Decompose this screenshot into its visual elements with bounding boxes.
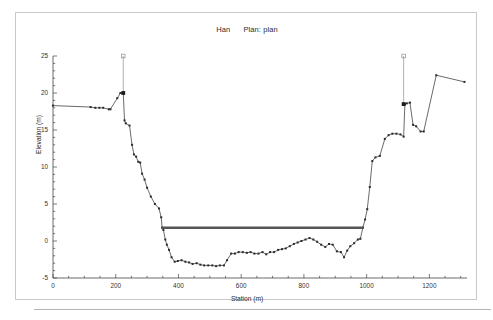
y-tick-label: 15 — [21, 126, 48, 133]
plot-area — [16, 13, 478, 301]
y-tick-label: -5 — [21, 274, 48, 281]
x-tick-label: 400 — [163, 282, 193, 289]
chart-page: Han Plan: plan Elevation (m) Station (m)… — [0, 0, 493, 320]
y-tick-label: 25 — [21, 52, 48, 59]
x-tick-label: 0 — [38, 282, 68, 289]
y-tick-label: 0 — [21, 237, 48, 244]
x-tick-label: 1000 — [352, 282, 382, 289]
bottom-divider — [34, 309, 491, 310]
y-tick-label: 5 — [21, 200, 48, 207]
y-tick-label: 20 — [21, 89, 48, 96]
chart-frame: Han Plan: plan Elevation (m) Station (m)… — [15, 12, 477, 300]
x-tick-label: 1200 — [414, 282, 444, 289]
x-tick-label: 600 — [226, 282, 256, 289]
right-bank-station — [402, 54, 406, 106]
x-tick-label: 200 — [101, 282, 131, 289]
y-tick-label: 10 — [21, 163, 48, 170]
x-tick-label: 800 — [289, 282, 319, 289]
left-bank-station — [121, 54, 125, 95]
